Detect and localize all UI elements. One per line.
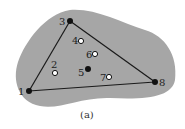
point-3 <box>67 18 73 24</box>
label-7: 7 <box>100 72 106 83</box>
point-6 <box>92 51 97 56</box>
label-8: 8 <box>159 77 165 88</box>
figure-caption: (a) <box>80 109 94 120</box>
point-2 <box>52 70 57 75</box>
label-3: 3 <box>59 16 65 27</box>
point-7 <box>106 74 111 79</box>
point-1 <box>26 88 32 94</box>
label-1: 1 <box>18 86 24 97</box>
label-4: 4 <box>72 35 78 46</box>
point-set-diagram: 1 2 3 4 5 6 7 8 (a) <box>0 0 185 129</box>
point-8 <box>152 79 158 85</box>
label-2: 2 <box>51 59 57 70</box>
label-6: 6 <box>86 49 92 60</box>
label-5: 5 <box>78 67 84 78</box>
point-4 <box>78 38 83 43</box>
gray-region <box>16 10 176 107</box>
point-5 <box>85 66 91 72</box>
